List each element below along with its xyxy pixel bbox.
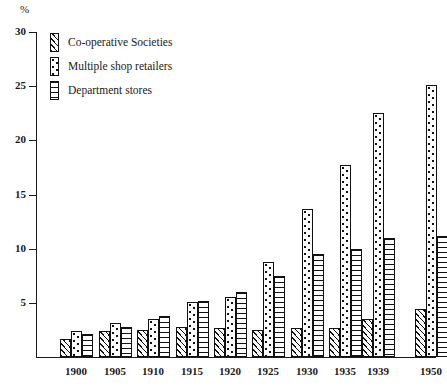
bar (329, 328, 340, 357)
legend-swatch-icon (50, 81, 59, 100)
x-axis-label-1939: 1939 (367, 365, 389, 377)
legend: Co-operative SocietiesMultiple shop reta… (50, 30, 250, 102)
bar (362, 319, 373, 357)
y-tick-label-30: 30 (15, 25, 26, 37)
bar (82, 334, 93, 357)
y-tick-label-15: 15 (15, 188, 26, 200)
bar (214, 328, 225, 357)
legend-item: Department stores (50, 78, 250, 102)
bar (71, 331, 82, 357)
bar (176, 327, 187, 357)
legend-item: Co-operative Societies (50, 30, 250, 54)
x-axis-label-1930: 1930 (296, 365, 318, 377)
bar (148, 319, 159, 357)
y-tick-label-5: 5 (21, 296, 27, 308)
bar (137, 330, 148, 357)
bar (236, 292, 247, 357)
x-axis-label-1935: 1935 (334, 365, 356, 377)
bar (60, 339, 71, 357)
y-tick-15: 15 (29, 195, 36, 196)
bar (225, 297, 236, 357)
bar (187, 302, 198, 357)
bar (198, 301, 209, 357)
x-axis-label-1905: 1905 (104, 365, 126, 377)
chart-page: % 51015202530 19001905191019151920192519… (0, 0, 447, 388)
y-tick-25: 25 (29, 86, 36, 87)
legend-label: Multiple shop retailers (68, 60, 172, 73)
x-axis-label-1910: 1910 (142, 365, 164, 377)
bar (313, 254, 324, 357)
x-axis-label-1950: 1950 (420, 365, 442, 377)
bar (121, 327, 132, 357)
y-tick-20: 20 (29, 140, 36, 141)
bar (437, 236, 447, 357)
x-axis-label-1920: 1920 (219, 365, 241, 377)
y-tick-30: 30 (29, 32, 36, 33)
bar (415, 309, 426, 357)
legend-label: Department stores (68, 84, 152, 97)
legend-item: Multiple shop retailers (50, 54, 250, 78)
y-tick-5: 5 (29, 303, 36, 304)
y-axis-unit-label: % (20, 3, 29, 15)
bar (351, 249, 362, 357)
y-tick-label-10: 10 (15, 242, 26, 254)
bar (373, 113, 384, 357)
y-tick-10: 10 (29, 249, 36, 250)
x-axis-label-1900: 1900 (65, 365, 87, 377)
bar (263, 262, 274, 357)
bar (291, 328, 302, 357)
bar (426, 85, 437, 357)
bar (274, 276, 285, 357)
legend-swatch-icon (50, 33, 59, 52)
y-tick-label-20: 20 (15, 133, 26, 145)
bar (159, 316, 170, 357)
x-axis-line (36, 357, 436, 358)
bar (340, 165, 351, 357)
y-tick-label-25: 25 (15, 79, 26, 91)
legend-swatch-icon (50, 57, 59, 76)
bar (252, 330, 263, 357)
bar (99, 331, 110, 357)
bar (384, 238, 395, 357)
legend-label: Co-operative Societies (68, 36, 172, 49)
bar (302, 209, 313, 357)
x-axis-label-1925: 1925 (257, 365, 279, 377)
y-axis-line (36, 32, 37, 357)
x-axis-label-1915: 1915 (181, 365, 203, 377)
bar (110, 323, 121, 357)
